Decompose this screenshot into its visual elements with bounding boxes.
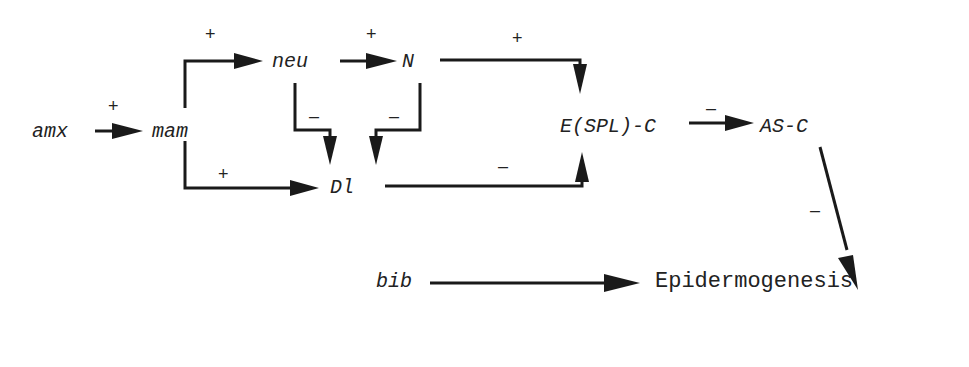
sign-asc-epidermogenesis: –: [810, 200, 820, 220]
node-amx: amx: [32, 120, 68, 143]
sign-esplc-asc: –: [706, 98, 716, 118]
node-N: N: [402, 50, 414, 73]
sign-amx-mam: +: [108, 96, 119, 116]
edge-mam-neu: [185, 53, 263, 108]
node-bib: bib: [376, 270, 412, 293]
sign-N-esplc: +: [512, 28, 523, 48]
sign-neu-N: +: [366, 24, 377, 44]
edge-neu-N: [340, 53, 397, 69]
edge-N-esplc: [440, 60, 587, 94]
node-Dl: Dl: [330, 176, 354, 199]
node-asc: AS-C: [758, 115, 808, 138]
node-mam: mam: [152, 120, 188, 143]
sign-N-Dl: –: [389, 106, 399, 126]
node-esplc: E(SPL)-C: [560, 115, 656, 138]
gene-network-diagram: amx mam neu N Dl E(SPL)-C AS-C bib Epide…: [0, 0, 969, 367]
sign-mam-neu: +: [205, 24, 216, 44]
node-epidermogenesis: Epidermogenesis: [655, 269, 853, 294]
edge-bib-epidermogenesis: [430, 274, 640, 292]
sign-neu-Dl: –: [309, 106, 319, 126]
edge-amx-mam: [95, 123, 143, 139]
edge-Dl-esplc: [385, 152, 589, 186]
edge-mam-Dl: [185, 141, 319, 196]
sign-Dl-esplc: –: [498, 156, 508, 176]
edge-esplc-asc: [689, 115, 754, 131]
node-neu: neu: [272, 50, 308, 73]
sign-mam-Dl: +: [218, 164, 229, 184]
